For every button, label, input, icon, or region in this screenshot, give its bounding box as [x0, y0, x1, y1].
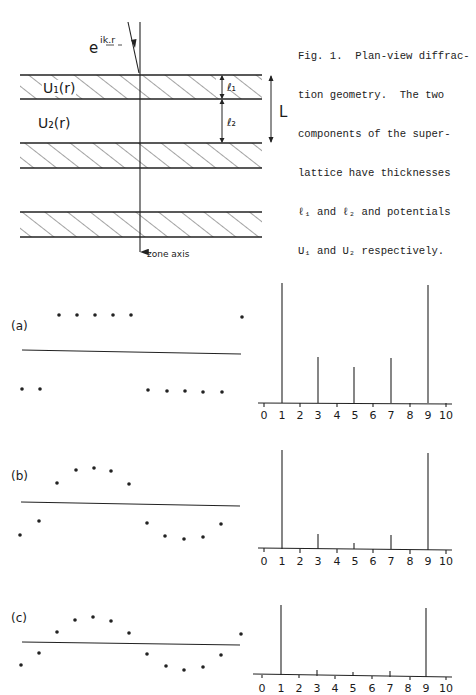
panel-b-bar-chart [258, 450, 452, 554]
caption-line-3: components of the super- [298, 128, 476, 141]
svg-text:2: 2 [297, 409, 304, 422]
svg-text:3: 3 [315, 409, 322, 422]
svg-text:5: 5 [352, 555, 359, 568]
panel-c-label: (c) [11, 611, 27, 625]
panel-a: (a) 0 1 2 3 4 5 6 7 8 9 10 [11, 283, 453, 422]
superlattice-diagram: e ik.r U₁(r) U₂(r) ℓ₁ ℓ₂ L zone axis [20, 22, 288, 259]
layer2-potential-label: U₂(r) [38, 115, 71, 131]
caption-line-1: Fig. 1. Plan-view diffrac- [298, 50, 476, 63]
svg-text:2: 2 [297, 555, 304, 568]
thickness1-label: ℓ₁ [226, 81, 236, 94]
svg-text:7: 7 [387, 682, 394, 695]
svg-text:6: 6 [370, 409, 377, 422]
svg-text:3: 3 [314, 682, 321, 695]
panel-b-label: (b) [11, 469, 28, 483]
svg-text:10: 10 [439, 409, 453, 422]
caption-line-4: lattice have thicknesses [298, 167, 476, 180]
svg-text:1: 1 [279, 555, 286, 568]
svg-text:9: 9 [425, 555, 432, 568]
caption-line-6: U₁ and U₂ respectively. [298, 245, 476, 258]
svg-text:9: 9 [425, 409, 432, 422]
svg-text:4: 4 [334, 555, 341, 568]
panel-a-x-ticks: 0 1 2 3 4 5 6 7 8 9 10 [261, 409, 454, 422]
thickness2-label: ℓ₂ [226, 116, 236, 129]
svg-text:0: 0 [261, 555, 268, 568]
svg-text:6: 6 [370, 555, 377, 568]
panel-b: (b) 0 1 2 3 4 5 6 7 8 9 10 [11, 450, 453, 568]
svg-text:0: 0 [259, 682, 266, 695]
svg-text:4: 4 [332, 682, 339, 695]
svg-text:8: 8 [405, 682, 412, 695]
svg-text:8: 8 [407, 409, 414, 422]
svg-text:5: 5 [350, 682, 357, 695]
svg-text:4: 4 [334, 409, 341, 422]
layer-2-hatched [20, 143, 262, 168]
svg-text:2: 2 [296, 682, 303, 695]
figure-caption: Fig. 1. Plan-view diffrac- tion geometry… [298, 24, 476, 271]
panel-a-bar-chart [258, 283, 452, 407]
caption-line-2: tion geometry. The two [298, 89, 476, 102]
svg-text:0: 0 [261, 409, 268, 422]
svg-text:6: 6 [369, 682, 376, 695]
panel-c-x-ticks: 0 1 2 3 4 5 6 7 8 9 10 [259, 682, 454, 695]
svg-text:10: 10 [439, 555, 453, 568]
svg-text:5: 5 [352, 409, 359, 422]
svg-text:1: 1 [279, 409, 286, 422]
zone-axis-label: zone axis [147, 249, 190, 259]
svg-text:3: 3 [315, 555, 322, 568]
caption-line-5: ℓ₁ and ℓ₂ and potentials [298, 206, 476, 219]
layer1-potential-label: U₁(r) [43, 80, 76, 96]
panel-a-label: (a) [11, 319, 28, 333]
layer-3-hatched [20, 212, 262, 237]
panel-c-bar-chart [253, 605, 452, 680]
svg-text:1: 1 [278, 682, 285, 695]
panel-b-x-ticks: 0 1 2 3 4 5 6 7 8 9 10 [261, 555, 454, 568]
incident-ray [128, 22, 139, 73]
svg-text:8: 8 [407, 555, 414, 568]
incident-wave-exponent: ik.r [100, 34, 115, 45]
svg-text:9: 9 [423, 682, 430, 695]
panel-c: (c) 0 1 2 3 4 5 6 7 8 9 10 [11, 605, 453, 695]
period-label: L [279, 103, 288, 121]
svg-text:7: 7 [388, 555, 395, 568]
svg-text:7: 7 [388, 409, 395, 422]
svg-text:10: 10 [439, 682, 453, 695]
incident-wave-base: e [89, 39, 98, 57]
